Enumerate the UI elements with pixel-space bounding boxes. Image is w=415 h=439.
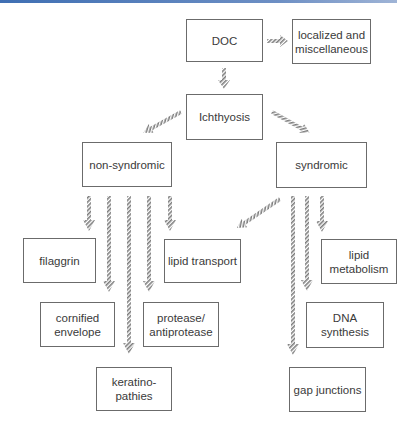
node-protease-antiprotease: protease/ antiprotease xyxy=(143,302,219,347)
arrow-ichthyosis-to-syndromic xyxy=(270,108,312,138)
node-filaggrin-label: filaggrin xyxy=(39,254,79,268)
node-localized-label: localized and miscellaneous xyxy=(295,28,369,56)
node-gap-junctions: gap junctions xyxy=(289,367,366,412)
node-keratinopathies-label: keratino- pathies xyxy=(108,375,160,403)
node-filaggrin: filaggrin xyxy=(23,238,96,283)
arrow-nonsyndromic-to-filaggrin xyxy=(83,196,95,231)
node-cornified-label: cornified envelope xyxy=(48,311,108,339)
node-ichthyosis: Ichthyosis xyxy=(186,94,263,140)
arrow-nonsyndromic-to-cornified xyxy=(103,196,115,292)
arrow-nonsyndromic-to-keratinopathies xyxy=(123,196,135,354)
node-lipid-transport-label: lipid transport xyxy=(168,254,237,268)
node-lipid-metabolism-label: lipid metabolism xyxy=(326,248,392,276)
node-cornified-envelope: cornified envelope xyxy=(40,302,115,347)
node-doc-label: DOC xyxy=(212,34,238,48)
arrow-syndromic-to-gap-junctions xyxy=(287,196,299,355)
node-ichthyosis-label: Ichthyosis xyxy=(199,110,250,124)
node-syndromic: syndromic xyxy=(276,142,367,188)
node-lipid-metabolism: lipid metabolism xyxy=(321,239,397,284)
node-localized-miscellaneous: localized and miscellaneous xyxy=(292,19,371,64)
arrow-syndromic-to-lipid-transport xyxy=(234,195,283,232)
arrow-syndromic-to-lipid-metabolism xyxy=(316,196,328,232)
node-lipid-transport: lipid transport xyxy=(164,239,241,283)
node-non-syndromic-label: non-syndromic xyxy=(89,158,164,172)
node-gap-junctions-label: gap junctions xyxy=(294,383,362,397)
arrow-doc-to-ichthyosis xyxy=(218,68,230,89)
arrow-syndromic-to-dna-synthesis xyxy=(301,196,313,291)
node-dna-synthesis-label: DNA synthesis xyxy=(317,311,373,339)
arrow-doc-to-localized xyxy=(267,35,288,47)
node-keratinopathies: keratino- pathies xyxy=(96,367,172,411)
arrow-nonsyndromic-to-protease xyxy=(143,196,155,292)
node-dna-synthesis: DNA synthesis xyxy=(306,302,384,348)
arrow-ichthyosis-to-nonsyndromic xyxy=(141,108,183,138)
arrow-nonsyndromic-to-lipid-transport xyxy=(164,196,176,231)
node-syndromic-label: syndromic xyxy=(295,158,347,172)
node-non-syndromic: non-syndromic xyxy=(82,142,172,187)
node-protease-label: protease/ antiprotease xyxy=(148,311,214,339)
node-doc: DOC xyxy=(186,19,263,62)
